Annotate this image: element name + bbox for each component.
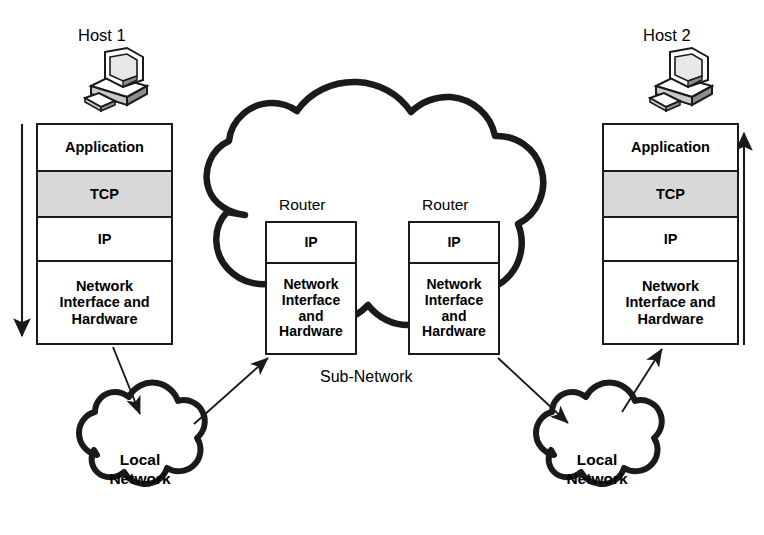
router2-ip-label: IP bbox=[447, 235, 460, 251]
router2-layer-network-interface: Network Interface and Hardware bbox=[410, 264, 498, 353]
host1-label: Host 1 bbox=[78, 26, 126, 45]
lan-left-label: Local Network bbox=[109, 451, 170, 488]
router1-network-interface-label: Network Interface and Hardware bbox=[279, 277, 343, 340]
router2-nih-line4: Hardware bbox=[422, 323, 486, 339]
host1-tcp-label: TCP bbox=[90, 186, 119, 202]
router1-layer-ip: IP bbox=[267, 223, 355, 264]
router1-nih-line1: Network bbox=[283, 276, 338, 292]
host2-tcp-label: TCP bbox=[656, 186, 685, 202]
host1-protocol-stack: Application TCP IP Network Interface and… bbox=[36, 123, 173, 345]
host2-nih-line2: Interface and bbox=[625, 294, 715, 310]
host1-nih-line3: Hardware bbox=[71, 311, 137, 327]
host1-ip-label: IP bbox=[98, 231, 112, 247]
lan-right-line2: Network bbox=[566, 470, 627, 487]
host1-nih-line1: Network bbox=[76, 278, 133, 294]
host2-label: Host 2 bbox=[643, 26, 691, 45]
lan-right-line1: Local bbox=[577, 451, 617, 468]
host2-layer-tcp: TCP bbox=[604, 172, 737, 218]
host2-protocol-stack: Application TCP IP Network Interface and… bbox=[602, 123, 739, 345]
host2-network-interface-label: Network Interface and Hardware bbox=[625, 278, 715, 327]
network-protocol-stack-diagram: Host 1 Host 2 Router Router Sub-Network … bbox=[0, 0, 764, 535]
router2-nih-line1: Network bbox=[426, 276, 481, 292]
host1-layer-ip: IP bbox=[38, 218, 171, 262]
host1-layer-network-interface: Network Interface and Hardware bbox=[38, 262, 171, 343]
host1-nih-line2: Interface and bbox=[59, 294, 149, 310]
router2-layer-ip: IP bbox=[410, 223, 498, 264]
router1-protocol-stack: IP Network Interface and Hardware bbox=[265, 221, 357, 355]
connection-router2-to-lan-right bbox=[498, 358, 568, 423]
host1-computer-icon bbox=[85, 48, 147, 111]
router1-nih-line4: Hardware bbox=[279, 323, 343, 339]
host2-nih-line3: Hardware bbox=[637, 311, 703, 327]
host1-application-label: Application bbox=[65, 139, 144, 155]
router2-nih-line2: Interface bbox=[425, 292, 483, 308]
router1-nih-line2: Interface bbox=[282, 292, 340, 308]
host1-layer-application: Application bbox=[38, 125, 171, 172]
subnetwork-label: Sub-Network bbox=[320, 368, 412, 386]
router1-ip-label: IP bbox=[304, 235, 317, 251]
router1-nih-line3: and bbox=[299, 308, 324, 324]
host2-application-label: Application bbox=[631, 139, 710, 155]
connection-lan-left-to-router1 bbox=[194, 358, 268, 424]
lan-left-line2: Network bbox=[109, 470, 170, 487]
router2-network-interface-label: Network Interface and Hardware bbox=[422, 277, 486, 340]
host2-ip-label: IP bbox=[664, 231, 678, 247]
host2-layer-application: Application bbox=[604, 125, 737, 172]
host2-layer-network-interface: Network Interface and Hardware bbox=[604, 262, 737, 343]
router2-protocol-stack: IP Network Interface and Hardware bbox=[408, 221, 500, 355]
host2-nih-line1: Network bbox=[642, 278, 699, 294]
host1-layer-tcp: TCP bbox=[38, 172, 171, 218]
host1-network-interface-label: Network Interface and Hardware bbox=[59, 278, 149, 327]
router2-label: Router bbox=[422, 196, 469, 214]
lan-right-label: Local Network bbox=[566, 451, 627, 488]
lan-left-line1: Local bbox=[120, 451, 160, 468]
router1-label: Router bbox=[279, 196, 326, 214]
host2-computer-icon bbox=[650, 48, 712, 111]
router1-layer-network-interface: Network Interface and Hardware bbox=[267, 264, 355, 353]
router2-nih-line3: and bbox=[442, 308, 467, 324]
host2-layer-ip: IP bbox=[604, 218, 737, 262]
